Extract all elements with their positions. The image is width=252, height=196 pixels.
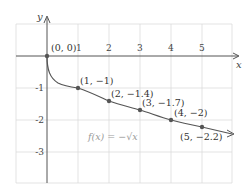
x-tick: 5 xyxy=(199,43,205,53)
point-1 xyxy=(76,86,80,90)
point-5 xyxy=(200,125,204,129)
point-3 xyxy=(138,108,142,112)
point-label: (5, −2.2) xyxy=(180,131,223,142)
point-4 xyxy=(169,118,173,122)
y-tick-labels: -1 -2 -3 xyxy=(35,83,44,157)
point-2 xyxy=(107,99,111,103)
point-label: (4, −2) xyxy=(174,107,208,118)
y-tick: -2 xyxy=(35,115,44,125)
y-tick: -1 xyxy=(35,83,44,93)
x-tick: 2 xyxy=(106,43,112,53)
x-axis-label: x xyxy=(236,59,242,70)
x-tick: 1 xyxy=(76,43,82,53)
y-tick: -3 xyxy=(35,147,44,157)
point-label: (0, 0) xyxy=(51,42,77,53)
point-label: (1, −1) xyxy=(80,75,114,86)
x-tick: 4 xyxy=(168,43,174,53)
y-axis-label: y xyxy=(36,11,43,22)
function-label: f(x) = −√x xyxy=(87,131,138,142)
point-0-0 xyxy=(45,54,49,58)
x-tick-labels: 1 2 3 4 5 xyxy=(76,43,205,53)
function-graph: x y 1 2 3 4 5 -1 -2 -3 (0, 0) (1, −1) (2… xyxy=(0,0,252,196)
x-tick: 3 xyxy=(137,43,143,53)
point-labels: (0, 0) (1, −1) (2, −1.4) (3, −1.7) (4, −… xyxy=(51,42,223,142)
